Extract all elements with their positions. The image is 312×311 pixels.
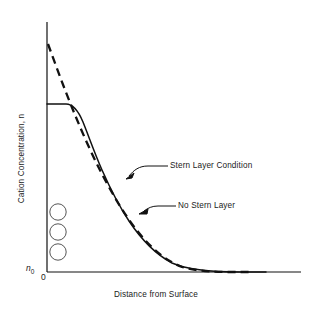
leader-line-stern-layer bbox=[129, 166, 168, 176]
plot-area bbox=[0, 0, 312, 311]
surface-ion-circle-3 bbox=[50, 244, 66, 260]
surface-ion-circle-1 bbox=[50, 204, 66, 220]
annotation-no-stern-layer: No Stern Layer bbox=[178, 201, 235, 210]
annotation-stern-layer-condition: Stern Layer Condition bbox=[170, 161, 252, 170]
leader-arrow-no-stern-layer bbox=[139, 209, 148, 214]
x-axis-origin-tick-label: 0 bbox=[41, 272, 46, 282]
dashed-curve-no-stern-layer bbox=[48, 44, 250, 272]
surface-ion-circle-2 bbox=[50, 224, 66, 240]
y-axis-label: Cation Concentration, n bbox=[17, 94, 26, 224]
y-axis-baseline-tick-label: n0 bbox=[26, 263, 34, 275]
leader-line-no-stern-layer bbox=[144, 206, 176, 211]
x-axis-label: Distance from Surface bbox=[0, 290, 312, 299]
y-tick-subscript: 0 bbox=[31, 268, 35, 275]
leader-arrow-stern-layer bbox=[126, 173, 134, 179]
figure-container: Cation Concentration, n Distance from Su… bbox=[0, 0, 312, 311]
